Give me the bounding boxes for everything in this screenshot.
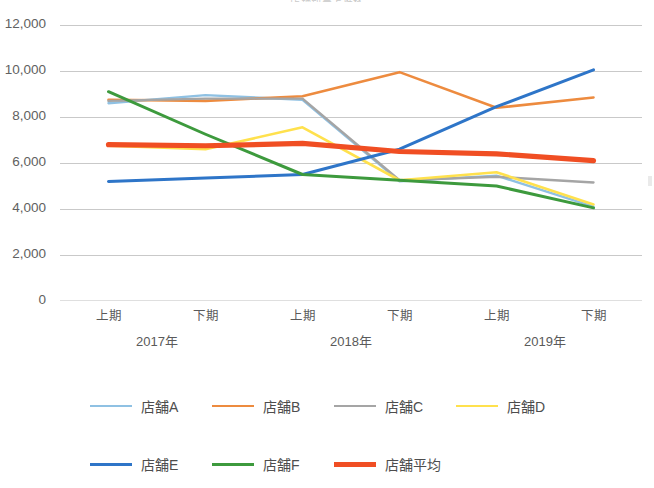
y-axis-tick-0: 0 (38, 293, 46, 307)
series-line-店舗E (109, 70, 594, 182)
chart-legend: 店舗A店舗B店舗C店舗D 店舗E店舗F店舗平均 (60, 390, 654, 480)
legend-label-店舗D: 店舗D (507, 396, 545, 416)
legend-item-店舗B[interactable]: 店舗B (212, 396, 300, 416)
legend-swatch-店舗F (212, 463, 254, 466)
legend-item-店舗平均[interactable]: 店舗平均 (334, 454, 441, 474)
legend-swatch-店舗E (90, 463, 132, 466)
legend-label-店舗C: 店舗C (385, 396, 423, 416)
x-axis-tick-4: 上期 (452, 305, 542, 324)
y-axis-labels: 12,00010,0008,0006,0004,0002,0000 (0, 0, 56, 330)
edge-artifact (648, 176, 652, 186)
x-axis-tick-5: 下期 (549, 305, 639, 324)
x-axis-tick-1: 下期 (161, 305, 251, 324)
legend-row-secondary: 店舗E店舗F店舗平均 (60, 448, 654, 480)
legend-swatch-店舗B (212, 405, 254, 407)
x-axis-tick-3: 下期 (355, 305, 445, 324)
x-axis-tick-labels: 上期下期上期下期上期下期 (60, 305, 642, 331)
plot-area (60, 25, 642, 301)
legend-label-店舗平均: 店舗平均 (385, 454, 441, 474)
y-axis-tick-10000: 10,000 (5, 63, 46, 77)
series-line-店舗平均 (109, 143, 594, 160)
plot-svg (60, 25, 642, 301)
legend-label-店舗F: 店舗F (263, 454, 300, 474)
legend-item-店舗E[interactable]: 店舗E (90, 454, 178, 474)
y-axis-tick-6000: 6,000 (12, 155, 46, 169)
line-chart: 店舗別売上推移 12,00010,0008,0006,0004,0002,000… (0, 0, 654, 488)
y-axis-tick-4000: 4,000 (12, 201, 46, 215)
legend-row-primary: 店舗A店舗B店舗C店舗D (60, 390, 654, 422)
legend-item-店舗C[interactable]: 店舗C (334, 396, 423, 416)
x-axis-tick-0: 上期 (64, 305, 154, 324)
legend-swatch-店舗平均 (334, 462, 376, 467)
x-axis-group-labels: 2017年2018年2019年 (60, 331, 642, 357)
x-axis-group-2018年: 2018年 (281, 331, 421, 350)
y-axis-tick-12000: 12,000 (5, 17, 46, 31)
x-axis-tick-2: 上期 (258, 305, 348, 324)
x-axis-group-2017年: 2017年 (87, 331, 227, 350)
legend-swatch-店舗C (334, 405, 376, 407)
legend-item-店舗A[interactable]: 店舗A (90, 396, 178, 416)
legend-item-店舗F[interactable]: 店舗F (212, 454, 300, 474)
series-line-店舗B (109, 72, 594, 108)
x-axis-group-2019年: 2019年 (475, 331, 615, 350)
legend-label-店舗E: 店舗E (141, 454, 178, 474)
legend-swatch-店舗D (456, 405, 498, 407)
legend-label-店舗A: 店舗A (141, 396, 178, 416)
legend-swatch-店舗A (90, 405, 132, 407)
legend-label-店舗B: 店舗B (263, 396, 300, 416)
y-axis-tick-8000: 8,000 (12, 109, 46, 123)
series-line-店舗C (109, 99, 594, 183)
y-axis-tick-2000: 2,000 (12, 247, 46, 261)
legend-item-店舗D[interactable]: 店舗D (456, 396, 545, 416)
chart-title: 店舗別売上推移 (0, 0, 654, 2)
